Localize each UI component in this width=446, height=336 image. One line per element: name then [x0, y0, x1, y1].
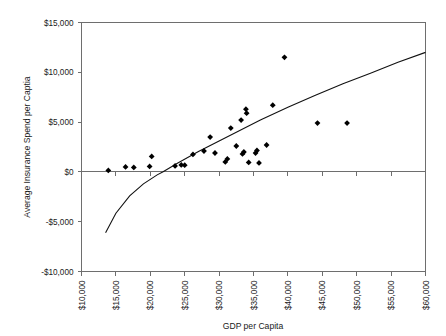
y-tick-label: -$5,000 [46, 218, 74, 227]
data-point [123, 164, 129, 170]
trend-curve [106, 52, 426, 232]
data-points [105, 54, 350, 173]
x-tick-label: $20,000 [146, 280, 155, 310]
y-axis-title: Average Insurance Spend per Captia [22, 76, 32, 217]
y-axis-tick-labels: -$10,000-$5,000$0$5,000$10,000$15,000 [41, 19, 74, 277]
y-axis-ticks [78, 23, 82, 272]
data-point [282, 54, 288, 60]
data-point [131, 165, 137, 171]
y-tick-label: $5,000 [48, 118, 73, 127]
data-point [207, 134, 213, 140]
data-point [182, 162, 188, 168]
plot-frame [82, 23, 426, 272]
data-point [315, 120, 321, 126]
data-point [246, 160, 252, 166]
x-tick-label: $60,000 [422, 280, 431, 310]
x-tick-label: $50,000 [353, 280, 362, 310]
data-point [256, 160, 262, 166]
chart-canvas: -$10,000-$5,000$0$5,000$10,000$15,000 $1… [0, 0, 446, 336]
data-point [264, 142, 270, 148]
data-point [201, 148, 207, 154]
data-point [238, 117, 244, 123]
x-tick-label: $25,000 [181, 280, 190, 310]
x-tick-label: $15,000 [112, 280, 121, 310]
data-point [270, 102, 276, 108]
x-tick-label: $55,000 [387, 280, 396, 310]
x-tick-label: $40,000 [284, 280, 293, 310]
y-tick-label: -$10,000 [41, 268, 74, 277]
data-point [344, 120, 350, 126]
data-point [244, 110, 250, 116]
x-axis-tick-labels: $10,000$15,000$20,000$25,000$30,000$35,0… [78, 280, 431, 310]
x-tick-label: $30,000 [215, 280, 224, 310]
zero-reference-line [82, 172, 426, 176]
data-point [233, 143, 239, 149]
y-tick-label: $10,000 [44, 68, 74, 77]
x-axis-title: GDP per Capita [223, 321, 284, 331]
y-tick-label: $15,000 [44, 19, 74, 28]
y-tick-label: $0 [64, 168, 74, 177]
x-axis-ticks [82, 272, 426, 276]
data-point [149, 154, 155, 160]
x-tick-label: $35,000 [250, 280, 259, 310]
data-point [212, 150, 218, 156]
data-point [105, 168, 111, 174]
x-tick-label: $10,000 [78, 280, 87, 310]
data-point [228, 125, 234, 131]
x-tick-label: $45,000 [318, 280, 327, 310]
data-point [190, 152, 196, 158]
scatter-chart: -$10,000-$5,000$0$5,000$10,000$15,000 $1… [0, 0, 446, 336]
data-point [147, 164, 153, 170]
